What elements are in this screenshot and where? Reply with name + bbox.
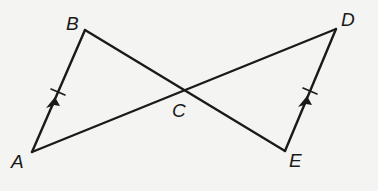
point-label-e: E xyxy=(289,151,302,170)
point-label-c: C xyxy=(172,101,186,120)
point-label-d: D xyxy=(341,10,355,29)
geometry-diagram: B A C D E xyxy=(0,0,378,191)
parallel-arrow-ab xyxy=(46,97,60,112)
point-label-b: B xyxy=(66,14,79,33)
parallel-arrow-ed xyxy=(298,96,312,111)
point-label-a: A xyxy=(11,152,24,171)
diagram-canvas xyxy=(0,0,378,191)
